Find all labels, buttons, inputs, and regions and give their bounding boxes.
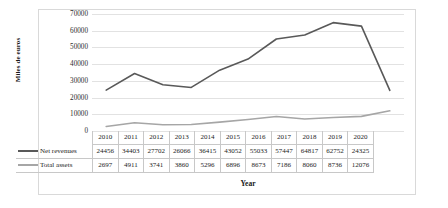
table-row: Net revenues2445634403277022606636415430… bbox=[16, 145, 373, 159]
table-corner-cell bbox=[16, 131, 93, 145]
series-line bbox=[106, 111, 390, 127]
x-tick-label: 2014 bbox=[195, 131, 221, 145]
table-header-row: 2010201120122013201420152016201720182019… bbox=[16, 131, 373, 145]
table-cell-value: 57447 bbox=[271, 145, 297, 159]
legend-entry[interactable]: Total assets bbox=[16, 159, 93, 173]
plot-area: 700006000050000400003000020000100000 bbox=[92, 14, 404, 131]
legend-line-icon bbox=[18, 164, 38, 166]
x-tick-label: 2016 bbox=[246, 131, 272, 145]
x-tick-label: 2015 bbox=[220, 131, 246, 145]
legend-line-icon bbox=[18, 150, 38, 152]
table-cell-value: 2697 bbox=[93, 159, 119, 173]
y-tick-label: 60000 bbox=[70, 27, 88, 35]
table-cell-value: 36415 bbox=[195, 145, 221, 159]
table-cell-value: 3860 bbox=[169, 159, 195, 173]
table-cell-value: 5296 bbox=[195, 159, 221, 173]
table-cell-value: 8060 bbox=[297, 159, 323, 173]
y-tick-label: 30000 bbox=[70, 77, 88, 85]
y-tick-label: 40000 bbox=[70, 60, 88, 68]
legend-label: Net revenues bbox=[40, 145, 77, 158]
x-tick-label: 2012 bbox=[144, 131, 170, 145]
series-line bbox=[106, 23, 390, 91]
x-tick-label: 2017 bbox=[271, 131, 297, 145]
y-tick-label: 50000 bbox=[70, 43, 88, 51]
y-tick-label: 70000 bbox=[70, 10, 88, 18]
legend-entry[interactable]: Net revenues bbox=[16, 145, 93, 159]
x-axis-title: Year bbox=[92, 179, 404, 188]
table-cell-value: 12076 bbox=[348, 159, 374, 173]
table-cell-value: 62752 bbox=[322, 145, 348, 159]
x-tick-label: 2010 bbox=[93, 131, 119, 145]
table-cell-value: 26066 bbox=[169, 145, 195, 159]
table-cell-value: 8673 bbox=[246, 159, 272, 173]
table-cell-value: 6896 bbox=[220, 159, 246, 173]
chart-figure: Miles de euros 7000060000500004000030000… bbox=[0, 0, 448, 208]
legend-label: Total assets bbox=[40, 159, 72, 172]
table-cell-value: 27702 bbox=[144, 145, 170, 159]
table-cell-value: 55033 bbox=[246, 145, 272, 159]
y-tick-label: 10000 bbox=[70, 110, 88, 118]
table-row: Total assets2697491137413860529668968673… bbox=[16, 159, 373, 173]
y-axis-title: Miles de euros bbox=[14, 20, 22, 100]
table-cell-value: 24456 bbox=[93, 145, 119, 159]
y-tick-label: 20000 bbox=[70, 94, 88, 102]
x-tick-label: 2019 bbox=[322, 131, 348, 145]
series-layer bbox=[92, 14, 404, 131]
table-cell-value: 7186 bbox=[271, 159, 297, 173]
table-cell-value: 34403 bbox=[118, 145, 144, 159]
table-cell-value: 3741 bbox=[144, 159, 170, 173]
x-tick-label: 2020 bbox=[348, 131, 374, 145]
x-tick-label: 2011 bbox=[118, 131, 144, 145]
x-tick-label: 2018 bbox=[297, 131, 323, 145]
table-cell-value: 64817 bbox=[297, 145, 323, 159]
table-cell-value: 8736 bbox=[322, 159, 348, 173]
x-tick-label: 2013 bbox=[169, 131, 195, 145]
data-table: 2010201120122013201420152016201720182019… bbox=[16, 131, 360, 173]
table-cell-value: 4911 bbox=[118, 159, 144, 173]
table-cell-value: 43052 bbox=[220, 145, 246, 159]
table-cell-value: 24325 bbox=[348, 145, 374, 159]
